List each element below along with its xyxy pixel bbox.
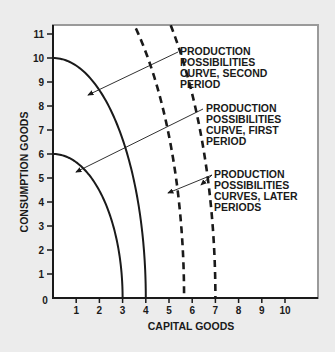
y-tick-label: 11 <box>33 29 44 40</box>
x-tick-label: 10 <box>279 305 291 316</box>
y-tick-label: 9 <box>38 77 44 88</box>
y-tick-label: 4 <box>38 197 44 208</box>
y-tick-label: 3 <box>38 221 44 232</box>
y-tick-label: 1 <box>38 269 44 280</box>
x-tick-label: 9 <box>259 305 265 316</box>
y-tick-label: 5 <box>38 173 44 184</box>
x-tick-label: 1 <box>73 305 79 316</box>
x-axis-title: CAPITAL GOODS <box>148 320 235 332</box>
ppf-chart: 012345678910 1234567891011 CAPITAL GOODS… <box>0 0 335 352</box>
y-tick-label: 2 <box>38 245 44 256</box>
x-tick-label: 5 <box>166 305 172 316</box>
y-tick-label: 7 <box>38 125 44 136</box>
x-tick-label: 4 <box>143 305 149 316</box>
y-tick-label: 8 <box>38 101 44 112</box>
x-tick-label: 8 <box>236 305 242 316</box>
x-tick-label: 3 <box>120 305 126 316</box>
x-tick-label: 0 <box>42 295 48 306</box>
y-ticks: 1234567891011 <box>33 29 53 280</box>
x-tick-label: 6 <box>189 305 195 316</box>
y-axis-title: CONSUMPTION GOODS <box>18 112 30 233</box>
x-tick-label: 2 <box>97 305 103 316</box>
x-tick-label: 7 <box>213 305 219 316</box>
y-tick-label: 10 <box>33 53 45 64</box>
y-tick-label: 6 <box>38 149 44 160</box>
